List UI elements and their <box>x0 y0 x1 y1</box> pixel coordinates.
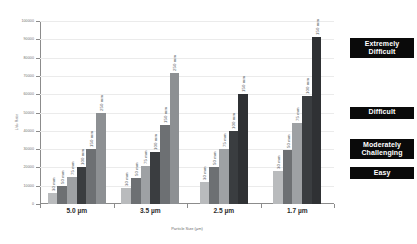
bar-slot: 50 mm <box>131 21 141 204</box>
bar[interactable]: 100 mm <box>150 152 160 204</box>
bar-value-label: 30 mm <box>51 177 56 191</box>
bar-value-label: 150 mm <box>241 76 246 92</box>
bar[interactable]: 75 mm <box>219 149 229 204</box>
bar-slot: 150 mm <box>238 21 248 204</box>
legend-item[interactable]: Difficult <box>350 107 414 119</box>
bar-slot: 30 mm <box>200 21 210 204</box>
bar-slot: 250 mm <box>170 21 180 204</box>
bar[interactable]: 50 mm <box>57 186 67 204</box>
bar-slot: 30 mm <box>121 21 131 204</box>
bar[interactable]: 75 mm <box>67 177 77 204</box>
bar-value-label: 75 mm <box>144 150 149 164</box>
legend-item[interactable]: Extremely Difficult <box>350 38 414 58</box>
x-tick <box>334 204 335 208</box>
bar-slot: 150 mm <box>86 21 96 204</box>
bar[interactable]: 50 mm <box>131 178 141 204</box>
bar-slot: 50 mm <box>57 21 67 204</box>
y-tick-label: 0 <box>32 202 34 206</box>
bar-slot: 100 mm <box>302 21 312 204</box>
bar[interactable]: 30 mm <box>200 182 210 204</box>
bar[interactable]: 75 mm <box>141 166 151 204</box>
y-tick-label: 10000 <box>24 184 35 188</box>
bar-group: 30 mm50 mm75 mm100 mm150 mm250 mm <box>114 21 188 204</box>
bar-value-label: 30 mm <box>276 156 281 170</box>
bar[interactable]: 50 mm <box>209 167 219 204</box>
bar[interactable]: 30 mm <box>48 193 58 204</box>
x-category-label: 3.5 µm <box>114 207 188 214</box>
bar-value-label: 75 mm <box>70 161 75 175</box>
bar[interactable]: 30 mm <box>121 188 131 204</box>
bar-group: 30 mm50 mm75 mm100 mm150 mm250 mm <box>40 21 114 204</box>
bar-groups: 30 mm50 mm75 mm100 mm150 mm250 mm30 mm50… <box>40 21 334 204</box>
bar-value-label: 150 mm <box>89 131 94 147</box>
bar-value-label: 50 mm <box>286 134 291 148</box>
y-tick-label: 50000 <box>24 111 35 115</box>
y-tick-label: 40000 <box>24 129 35 133</box>
bar-value-label: 250 mm <box>172 55 177 71</box>
bar[interactable]: 250 mm <box>96 113 106 205</box>
bar-slot: 75 mm <box>292 21 302 204</box>
x-category-label: 2.5 µm <box>187 207 261 214</box>
bar[interactable]: 150 mm <box>312 37 322 204</box>
bar-slot: 30 mm <box>273 21 283 204</box>
bar-value-label: 30 mm <box>203 166 208 180</box>
x-axis-categories: 5.0 µm3.5 µm2.5 µm1.7 µm <box>40 207 334 214</box>
bar-value-label: 30 mm <box>124 173 129 187</box>
x-category-label: 1.7 µm <box>261 207 335 214</box>
bar-value-label: 75 mm <box>295 108 300 122</box>
bar-value-label: 100 mm <box>153 134 158 150</box>
bar[interactable]: 50 mm <box>283 150 293 204</box>
bar-value-label: 100 mm <box>232 113 237 129</box>
bar[interactable]: 75 mm <box>292 123 302 204</box>
x-axis-title: Particle Size (µm) <box>40 226 334 231</box>
bar-value-label: 150 mm <box>163 107 168 123</box>
bar-slot: 50 mm <box>209 21 219 204</box>
bar-slot: 50 mm <box>283 21 293 204</box>
bar[interactable]: 150 mm <box>160 125 170 204</box>
bar[interactable]: 100 mm <box>229 131 239 204</box>
bar-chart: L/dₚ Ratio 01000020000300004000050000600… <box>0 0 417 244</box>
bar-value-label: 50 mm <box>212 152 217 166</box>
bar-slot: 30 mm <box>48 21 58 204</box>
y-tick-label: 30000 <box>24 147 35 151</box>
y-tick-label: 20000 <box>24 165 35 169</box>
bar[interactable]: 100 mm <box>77 167 87 204</box>
bar-value-label: 150 mm <box>315 19 320 35</box>
bar-value-label: 100 mm <box>80 149 85 165</box>
bar-slot: 150 mm <box>160 21 170 204</box>
bar[interactable]: 150 mm <box>238 94 248 204</box>
y-tick-label: 80000 <box>24 56 35 60</box>
bar-slot: 100 mm <box>77 21 87 204</box>
legend-item[interactable]: Moderately Challenging <box>350 139 414 159</box>
x-category-label: 5.0 µm <box>40 207 114 214</box>
y-tick-label: 90000 <box>24 37 35 41</box>
legend-item[interactable]: Easy <box>350 167 414 179</box>
difficulty-legend: Extremely DifficultDifficultModerately C… <box>344 0 417 244</box>
bar-slot: 250 mm <box>96 21 106 204</box>
bar-slot: 100 mm <box>229 21 239 204</box>
bar-slot: 75 mm <box>141 21 151 204</box>
y-tick-label: 60000 <box>24 92 35 96</box>
bar-group: 30 mm50 mm75 mm100 mm150 mm <box>187 21 261 204</box>
y-tick-label: 100000 <box>21 19 34 23</box>
bar-value-label: 75 mm <box>222 134 227 148</box>
bar-slot: 75 mm <box>219 21 229 204</box>
bar-value-label: 50 mm <box>60 170 65 184</box>
bar-group: 30 mm50 mm75 mm100 mm150 mm <box>261 21 335 204</box>
bar-slot: 150 mm <box>312 21 322 204</box>
bar-value-label: 250 mm <box>99 94 104 110</box>
bar[interactable]: 100 mm <box>302 96 312 204</box>
y-tick-label: 70000 <box>24 74 35 78</box>
bar-slot: 100 mm <box>150 21 160 204</box>
bar[interactable]: 250 mm <box>170 73 180 204</box>
y-axis-title: L/dₚ Ratio <box>15 114 19 130</box>
bar[interactable]: 30 mm <box>273 171 283 204</box>
bar-value-label: 100 mm <box>305 78 310 94</box>
bar-slot: 75 mm <box>67 21 77 204</box>
bar[interactable]: 150 mm <box>86 149 96 204</box>
plot-area: 0100002000030000400005000060000700008000… <box>40 21 334 204</box>
bar-value-label: 50 mm <box>134 163 139 177</box>
